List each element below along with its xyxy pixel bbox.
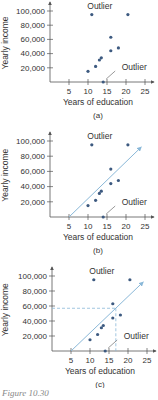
data-point: [102, 324, 105, 327]
y-tick-label: 100,000: [18, 272, 47, 281]
data-point: [109, 49, 112, 52]
y-axis-label: Yearly income: [0, 16, 10, 69]
panel-label: (c): [95, 380, 105, 388]
y-tick-label: 60,000: [21, 167, 46, 176]
y-axis-label: Yearly income: [0, 283, 10, 336]
panel-label: (b): [93, 246, 103, 255]
data-point: [92, 278, 95, 281]
data-point: [128, 278, 131, 281]
y-tick-label: 80,000: [21, 152, 46, 161]
x-tick-label: 20: [122, 87, 131, 96]
data-point: [109, 36, 112, 39]
scatter-plot-a: 20,00040,00060,00080,000100,000510152025…: [0, 0, 158, 128]
x-tick-label: 15: [105, 356, 114, 365]
data-point: [119, 313, 122, 316]
data-point: [111, 316, 114, 319]
x-tick-label: 5: [67, 87, 72, 96]
outlier-label-top: Outlier: [87, 1, 112, 11]
y-tick-label: 60,000: [21, 35, 46, 44]
chart-panel-c: 20,00040,00060,00080,000100,000510152025…: [0, 258, 158, 388]
data-point: [102, 215, 105, 218]
x-tick-label: 10: [86, 356, 95, 365]
outlier-pointer: [106, 71, 115, 79]
outlier-label-top: Outlier: [89, 266, 114, 276]
panel-label: (a): [93, 111, 103, 120]
x-tick-label: 5: [67, 222, 72, 231]
data-point: [100, 190, 103, 193]
data-point: [109, 168, 112, 171]
data-point: [126, 143, 129, 146]
data-point: [100, 56, 103, 59]
y-tick-label: 60,000: [23, 302, 48, 311]
figure-caption: Figure 10.30: [2, 388, 49, 398]
x-tick-label: 20: [122, 222, 131, 231]
scatter-plot-c: 20,00040,00060,00080,000100,000510152025…: [0, 258, 158, 388]
y-tick-label: 40,000: [21, 49, 46, 58]
data-point: [109, 182, 112, 185]
x-tick-label: 15: [103, 87, 112, 96]
data-point: [88, 338, 91, 341]
data-point: [86, 204, 89, 207]
data-point: [94, 65, 97, 68]
x-tick-label: 25: [143, 356, 152, 365]
data-point: [96, 333, 99, 336]
x-tick-label: 25: [141, 222, 150, 231]
data-point: [90, 13, 93, 16]
y-tick-label: 40,000: [23, 317, 48, 326]
y-axis-label: Yearly income: [0, 148, 10, 201]
data-point: [111, 302, 114, 305]
outlier-label-top: Outlier: [87, 131, 112, 141]
x-tick-label: 5: [69, 356, 74, 365]
outlier-label-bottom: Outlier: [122, 62, 147, 72]
y-tick-label: 20,000: [21, 64, 46, 73]
y-tick-label: 20,000: [23, 332, 48, 341]
y-tick-label: 100,000: [16, 7, 45, 16]
data-point: [117, 179, 120, 182]
outlier-label-bottom: Outlier: [122, 197, 147, 207]
data-point: [102, 80, 105, 83]
outlier-label-bottom: Outlier: [124, 331, 149, 341]
x-axis-label: Years of education: [63, 232, 133, 242]
chart-panel-a: 20,00040,00060,00080,000100,000510152025…: [0, 0, 158, 128]
y-tick-label: 80,000: [21, 21, 46, 30]
x-tick-label: 10: [84, 87, 93, 96]
x-tick-label: 10: [84, 222, 93, 231]
outlier-pointer: [106, 206, 115, 214]
data-point: [86, 70, 89, 73]
y-tick-label: 20,000: [21, 198, 46, 207]
x-tick-label: 25: [141, 87, 150, 96]
x-axis-label: Years of education: [63, 97, 133, 107]
x-tick-label: 20: [124, 356, 133, 365]
x-tick-label: 15: [103, 222, 112, 231]
data-point: [117, 46, 120, 49]
data-point: [94, 199, 97, 202]
data-point: [90, 143, 93, 146]
chart-panel-b: 20,00040,00060,00080,000100,000510152025…: [0, 128, 158, 258]
y-tick-label: 40,000: [21, 182, 46, 191]
x-axis-label: Years of education: [65, 366, 135, 376]
data-point: [126, 13, 129, 16]
scatter-plot-b: 20,00040,00060,00080,000100,000510152025…: [0, 128, 158, 258]
y-tick-label: 80,000: [23, 287, 48, 296]
data-point: [104, 349, 107, 352]
y-tick-label: 100,000: [16, 137, 45, 146]
